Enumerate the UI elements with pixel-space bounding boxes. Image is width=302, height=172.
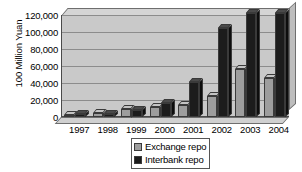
bar-front: [132, 110, 142, 117]
bar-interbank-repo: [246, 13, 256, 117]
chart-legend: Exchange repoInterbank repo: [131, 138, 210, 169]
bar-side: [285, 10, 289, 117]
bar-front: [264, 78, 274, 117]
bar-interbank-repo: [275, 13, 285, 117]
plot-right-face: [289, 2, 296, 110]
bar-side: [199, 79, 203, 117]
bar-exchange-repo: [235, 69, 245, 117]
bar-interbank-repo: [132, 110, 142, 117]
bar-chart-figure: 100 Million Yuan 120,000100,00080,00060,…: [0, 0, 302, 172]
bar-exchange-repo: [178, 105, 188, 117]
bar-group: [175, 15, 204, 117]
y-tick-label: 120,000: [25, 10, 58, 21]
bar-group: [118, 15, 147, 117]
bar-front: [189, 82, 199, 117]
x-tick-label: 1999: [126, 124, 146, 135]
x-tick-label: 2003: [240, 124, 260, 135]
bar-front: [150, 107, 160, 117]
bar-front: [178, 105, 188, 117]
bars-layer: [61, 15, 289, 117]
bar-front: [275, 13, 285, 117]
bar-front: [104, 114, 114, 117]
x-tick-label: 1998: [98, 124, 118, 135]
bar-interbank-repo: [189, 82, 199, 117]
legend-label: Exchange repo: [145, 141, 206, 152]
y-tick-label: 80,000: [30, 44, 58, 55]
bar-side: [142, 107, 146, 117]
legend-label: Interbank repo: [145, 154, 203, 165]
bar-front: [93, 113, 103, 117]
legend-item: Exchange repo: [134, 140, 206, 153]
legend-swatch-interbank: [134, 156, 142, 164]
x-tick-label: 2002: [212, 124, 232, 135]
bar-interbank-repo: [161, 103, 171, 117]
x-tick-label: 2004: [269, 124, 289, 135]
x-tick-label: 2001: [183, 124, 203, 135]
y-tick-label: 20,000: [30, 95, 58, 106]
bar-group: [204, 15, 233, 117]
bar-exchange-repo: [264, 78, 274, 117]
bar-interbank-repo: [75, 114, 85, 117]
bar-group: [261, 15, 290, 117]
y-tick-label: 100,000: [25, 27, 58, 38]
bar-group: [90, 15, 119, 117]
bar-side: [228, 24, 232, 117]
plot-floor-face: [55, 117, 289, 124]
y-tick-label: 40,000: [30, 78, 58, 89]
bar-interbank-repo: [218, 28, 228, 117]
y-tick-label: 60,000: [30, 61, 58, 72]
bar-front: [121, 109, 131, 118]
bar-exchange-repo: [207, 96, 217, 117]
bar-side: [85, 111, 89, 117]
y-axis-tick-labels: 120,000100,00080,00060,00040,00020,0000: [14, 9, 58, 117]
bar-front: [246, 13, 256, 117]
bar-group: [147, 15, 176, 117]
bar-front: [235, 69, 245, 117]
bar-exchange-repo: [64, 115, 74, 117]
bar-exchange-repo: [93, 113, 103, 117]
bar-interbank-repo: [104, 114, 114, 117]
bar-front: [75, 114, 85, 117]
x-tick-label: 1997: [69, 124, 89, 135]
bar-group: [61, 15, 90, 117]
x-axis-tick-labels: 19971998199920002001200220032004: [61, 124, 296, 138]
bar-front: [218, 28, 228, 117]
legend-item: Interbank repo: [134, 153, 206, 166]
bar-exchange-repo: [121, 109, 131, 118]
bar-front: [64, 115, 74, 117]
legend-swatch-exchange: [134, 143, 142, 151]
x-tick-label: 2000: [155, 124, 175, 135]
bar-front: [207, 96, 217, 117]
bar-front: [161, 103, 171, 117]
bar-group: [232, 15, 261, 117]
bar-exchange-repo: [150, 107, 160, 117]
bar-side: [256, 10, 260, 117]
bar-side: [171, 99, 175, 117]
